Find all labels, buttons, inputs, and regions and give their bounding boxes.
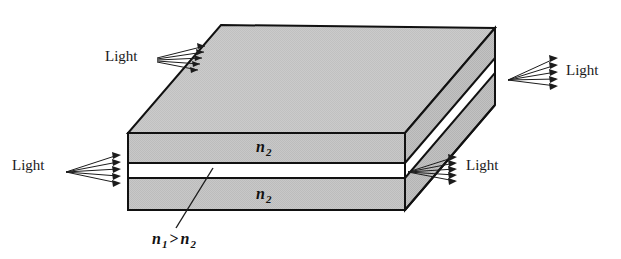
- light-label-mid-right: Light: [466, 158, 499, 173]
- index-relation-label: n1>n2: [152, 231, 196, 250]
- beam-arrowheads-top-right: [549, 55, 558, 90]
- upper-cladding-index-subscript: 2: [265, 146, 272, 158]
- light-label-top-left: Light: [105, 49, 138, 64]
- index-relation-n2-subscript: 2: [189, 238, 196, 250]
- lower-cladding-index-label: n2: [256, 186, 271, 205]
- beam-arrowheads-mid-left: [112, 152, 121, 187]
- emergent-beam-top-right: [508, 55, 558, 90]
- lower-cladding-index-symbol: n: [256, 185, 265, 202]
- beam-arrowheads-mid-right: [448, 154, 457, 185]
- upper-cladding-index-label: n2: [256, 139, 271, 158]
- upper-cladding-index-symbol: n: [256, 138, 265, 155]
- index-relation-operator: >: [167, 230, 180, 247]
- waveguide-slab-body: [128, 25, 495, 210]
- index-relation-n1-symbol: n: [152, 230, 161, 247]
- front-face-core-layer: [128, 163, 405, 178]
- light-label-mid-left: Light: [12, 158, 45, 173]
- figure-canvas: Light Light Light Light n2 n2 n1>n2: [0, 0, 621, 259]
- incident-beam-mid-left: [66, 152, 121, 187]
- lower-cladding-index-subscript: 2: [265, 193, 272, 205]
- waveguide-illustration: [0, 0, 621, 259]
- light-label-top-right: Light: [566, 63, 599, 78]
